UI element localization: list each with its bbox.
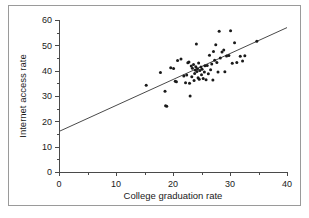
y-tick-label: 30 xyxy=(42,91,52,101)
data-point xyxy=(184,81,187,84)
data-point xyxy=(233,41,236,44)
data-point xyxy=(205,78,208,81)
data-point xyxy=(209,68,212,71)
data-point xyxy=(201,68,204,71)
data-point xyxy=(145,84,148,87)
data-point xyxy=(229,29,232,32)
data-point xyxy=(255,40,258,43)
x-tick-label: 40 xyxy=(282,179,292,189)
y-tick-label: 60 xyxy=(42,15,52,25)
data-point xyxy=(211,79,214,82)
data-point xyxy=(172,67,175,70)
x-tick-label: 30 xyxy=(225,179,235,189)
data-point xyxy=(169,66,172,69)
data-point xyxy=(191,67,194,70)
tick-label-group: 0102030405060010203040 xyxy=(42,15,292,189)
data-point xyxy=(227,54,230,57)
data-point xyxy=(193,79,196,82)
data-point xyxy=(206,64,209,67)
data-point xyxy=(185,73,188,76)
data-point xyxy=(195,70,198,73)
regression-line xyxy=(59,28,287,132)
data-point xyxy=(223,70,226,73)
y-tick-label: 40 xyxy=(42,66,52,76)
data-point xyxy=(235,61,238,64)
data-point xyxy=(241,60,244,63)
data-point xyxy=(210,63,213,66)
data-point xyxy=(217,70,220,73)
data-point xyxy=(189,95,192,98)
scatter-plot: 0102030405060010203040 College graduatio… xyxy=(0,0,309,218)
data-point xyxy=(176,59,179,62)
data-point xyxy=(200,73,203,76)
trendline-group xyxy=(59,28,287,132)
y-axis-title: Internet access rate xyxy=(17,54,28,137)
y-tick-label: 10 xyxy=(42,142,52,152)
data-point xyxy=(198,78,201,81)
figure-root: 0102030405060010203040 College graduatio… xyxy=(0,0,309,218)
data-point xyxy=(179,58,182,61)
data-point xyxy=(197,62,200,65)
data-point xyxy=(219,57,222,60)
data-point xyxy=(182,74,185,77)
data-point xyxy=(239,55,242,58)
data-point xyxy=(175,80,178,83)
x-axis-title: College graduation rate xyxy=(124,190,223,201)
data-point xyxy=(195,43,198,46)
data-point xyxy=(187,61,190,64)
data-point xyxy=(218,30,221,33)
data-point xyxy=(203,70,206,73)
tick-group xyxy=(55,21,288,177)
y-tick-label: 20 xyxy=(42,117,52,127)
data-point xyxy=(193,72,196,75)
data-point xyxy=(188,82,191,85)
data-point xyxy=(222,48,225,51)
x-tick-label: 10 xyxy=(111,179,121,189)
data-point xyxy=(213,59,216,62)
data-point xyxy=(190,75,193,78)
data-point xyxy=(159,71,162,74)
data-point xyxy=(208,54,211,57)
data-point xyxy=(165,105,168,108)
y-tick-label: 0 xyxy=(47,167,52,177)
data-point xyxy=(212,50,215,53)
x-tick-label: 20 xyxy=(168,179,178,189)
data-point xyxy=(215,61,218,64)
data-point xyxy=(243,54,246,57)
data-points-group xyxy=(145,29,259,107)
data-point xyxy=(202,77,205,80)
data-point xyxy=(192,63,195,66)
data-point xyxy=(207,72,210,75)
data-point xyxy=(164,90,167,93)
data-point xyxy=(231,62,234,65)
data-point xyxy=(214,43,217,46)
x-tick-label: 0 xyxy=(56,179,61,189)
y-tick-label: 50 xyxy=(42,41,52,51)
